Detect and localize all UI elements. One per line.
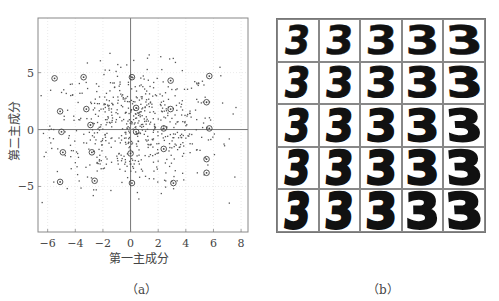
digit-cell: 3 bbox=[402, 189, 444, 232]
pca-scatter-plot: −6−4−202468 50−5 第一主成分 第二主成分 bbox=[0, 0, 265, 301]
y-axis-label: 第二主成分 bbox=[8, 101, 22, 161]
digit-cell: 3 bbox=[443, 104, 485, 147]
handwritten-digit-image: 3 bbox=[364, 104, 397, 147]
handwritten-digit-image: 3 bbox=[444, 189, 485, 232]
digit-cell: 3 bbox=[402, 147, 444, 190]
handwritten-digit-image: 3 bbox=[282, 189, 313, 232]
digit-cell: 3 bbox=[402, 62, 444, 105]
svg-text:4: 4 bbox=[182, 237, 189, 250]
digit-cell: 3 bbox=[277, 147, 319, 190]
svg-text:−2: −2 bbox=[95, 237, 111, 250]
handwritten-digit-image: 3 bbox=[405, 62, 440, 104]
digit-cell: 3 bbox=[443, 19, 485, 62]
digit-cell: 3 bbox=[319, 189, 361, 232]
sample-dots bbox=[40, 53, 236, 204]
handwritten-digit-image: 3 bbox=[444, 20, 485, 60]
handwritten-digit-image: 3 bbox=[444, 62, 485, 104]
handwritten-digit-image: 3 bbox=[405, 189, 440, 232]
digit-cell: 3 bbox=[402, 104, 444, 147]
digit-cell: 3 bbox=[443, 147, 485, 190]
handwritten-digit-image: 3 bbox=[444, 147, 485, 190]
handwritten-digit-image: 3 bbox=[364, 189, 397, 232]
svg-text:2: 2 bbox=[155, 237, 162, 250]
digit-cell: 3 bbox=[360, 19, 402, 62]
digit-grid-panel-b: 3333333333333333333333333 （b） bbox=[265, 0, 499, 301]
digit-cell: 3 bbox=[319, 147, 361, 190]
digit-cell: 3 bbox=[402, 19, 444, 62]
digit-cell: 3 bbox=[277, 104, 319, 147]
caption-a: （a） bbox=[126, 280, 157, 297]
handwritten-digit-image: 3 bbox=[364, 20, 397, 60]
svg-text:0: 0 bbox=[127, 237, 134, 250]
handwritten-digit-image: 3 bbox=[323, 20, 355, 60]
digit-cell: 3 bbox=[277, 19, 319, 62]
svg-text:8: 8 bbox=[238, 237, 245, 250]
svg-text:−4: −4 bbox=[67, 237, 83, 250]
digit-cell: 3 bbox=[277, 62, 319, 105]
digit-cell: 3 bbox=[360, 104, 402, 147]
digit-cell: 3 bbox=[360, 189, 402, 232]
digit-cell: 3 bbox=[319, 19, 361, 62]
svg-text:5: 5 bbox=[27, 67, 34, 80]
digit-image-grid: 3333333333333333333333333 bbox=[276, 18, 486, 233]
handwritten-digit-image: 3 bbox=[364, 147, 397, 190]
handwritten-digit-image: 3 bbox=[323, 147, 355, 190]
digit-cell: 3 bbox=[277, 189, 319, 232]
handwritten-digit-image: 3 bbox=[282, 20, 313, 60]
handwritten-digit-image: 3 bbox=[405, 147, 440, 190]
svg-text:−6: −6 bbox=[40, 237, 56, 250]
handwritten-digit-image: 3 bbox=[282, 147, 313, 190]
handwritten-digit-image: 3 bbox=[323, 189, 355, 232]
digit-cell: 3 bbox=[360, 62, 402, 105]
svg-text:0: 0 bbox=[27, 124, 34, 137]
handwritten-digit-image: 3 bbox=[405, 104, 440, 147]
x-axis-label: 第一主成分 bbox=[109, 252, 169, 266]
scatter-panel-a: −6−4−202468 50−5 第一主成分 第二主成分 （a） bbox=[0, 0, 265, 301]
svg-text:6: 6 bbox=[210, 237, 217, 250]
digit-cell: 3 bbox=[443, 62, 485, 105]
digit-cell: 3 bbox=[319, 62, 361, 105]
handwritten-digit-image: 3 bbox=[323, 104, 355, 147]
caption-b: （b） bbox=[367, 280, 399, 297]
handwritten-digit-image: 3 bbox=[364, 62, 397, 104]
handwritten-digit-image: 3 bbox=[405, 20, 440, 60]
svg-text:−5: −5 bbox=[18, 180, 34, 193]
digit-cell: 3 bbox=[443, 189, 485, 232]
digit-cell: 3 bbox=[360, 147, 402, 190]
handwritten-digit-image: 3 bbox=[444, 104, 485, 147]
handwritten-digit-image: 3 bbox=[282, 104, 313, 147]
handwritten-digit-image: 3 bbox=[282, 62, 313, 104]
digit-cell: 3 bbox=[319, 104, 361, 147]
handwritten-digit-image: 3 bbox=[323, 62, 355, 104]
